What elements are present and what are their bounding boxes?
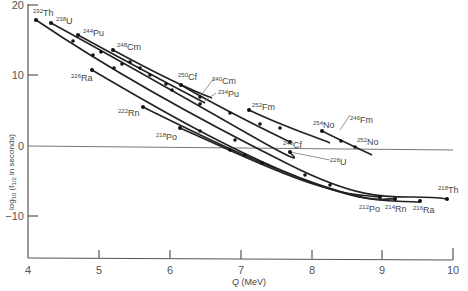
x-axis-title: Q (MeV): [232, 277, 266, 287]
y-tick-20: 20: [12, 0, 24, 11]
label-248cm: 248Cm: [117, 42, 141, 52]
x-tick-10: 10: [447, 264, 459, 276]
label-250cf: 250Cf: [178, 72, 198, 82]
curve-pu: [78, 35, 205, 103]
curve-po: [180, 128, 380, 197]
y-tick-0: 0: [18, 140, 24, 152]
isotope-labels: 232Th 238U 244Pu 248Cm 226Ra 250Cf 240Cm…: [33, 8, 459, 215]
label-214rn: 214Rn: [385, 204, 407, 214]
label-218th: 218Th: [438, 185, 459, 195]
x-tick-6: 6: [167, 264, 173, 276]
y-tick-10: 10: [12, 69, 24, 81]
label-240cm: 240Cm: [212, 76, 236, 86]
x-tick-9: 9: [379, 264, 385, 276]
x-tick-4: 4: [25, 264, 31, 276]
label-222rn: 222Rn: [118, 108, 140, 118]
half-life-vs-q-chart: 20 10 0 −10 4 5 6 7 8 9 10 Q (MeV) log10…: [0, 0, 468, 291]
label-212po: 212Po: [359, 204, 380, 214]
label-246fm: 246Fm: [350, 115, 373, 125]
x-tick-7: 7: [238, 264, 244, 276]
y-tick-minus10: −10: [5, 210, 24, 222]
curves: [36, 20, 447, 202]
label-234pu: 234Pu: [218, 89, 239, 99]
x-tick-5: 5: [96, 264, 102, 276]
label-232th: 232Th: [33, 8, 54, 18]
label-252no: 252No: [357, 137, 379, 147]
label-216ra: 216Ra: [413, 205, 435, 215]
label-226ra: 226Ra: [71, 73, 93, 83]
label-218po: 218Po: [156, 132, 177, 142]
y-axis-title: log10 (t1/2 in seconds): [7, 134, 17, 210]
x-tick-8: 8: [309, 264, 315, 276]
curve-fm: [249, 110, 330, 143]
label-254no: 254No: [313, 120, 335, 130]
zero-line: [28, 146, 453, 150]
label-252fm: 252Fm: [252, 102, 275, 112]
label-238u: 238U: [56, 16, 73, 26]
x-tick-labels: 4 5 6 7 8 9 10: [25, 264, 459, 276]
label-226u: 226U: [330, 157, 347, 167]
label-244pu: 244Pu: [83, 28, 104, 38]
curve-ra: [92, 70, 420, 202]
curve-th: [36, 20, 447, 199]
